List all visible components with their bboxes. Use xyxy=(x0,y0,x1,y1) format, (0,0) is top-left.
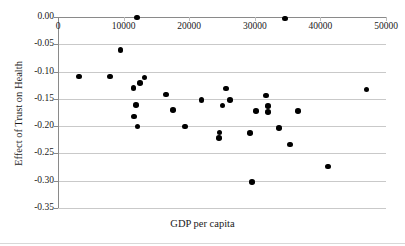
data-point xyxy=(134,15,140,21)
data-point xyxy=(170,107,176,113)
x-tick-mark xyxy=(255,17,256,21)
y-gridline xyxy=(58,44,386,45)
data-point xyxy=(295,108,301,114)
x-tick-mark xyxy=(124,17,125,21)
data-point xyxy=(364,87,370,93)
x-tick-label: 20000 xyxy=(177,22,201,32)
bottom-divider xyxy=(0,243,405,244)
data-point xyxy=(265,103,271,109)
data-point xyxy=(282,16,288,22)
data-point xyxy=(276,125,282,131)
y-tick-mark xyxy=(54,208,58,209)
x-axis-tick-labels: 01000020000300004000050000 xyxy=(58,22,386,38)
x-tick-label: 50000 xyxy=(374,22,398,32)
data-point xyxy=(131,114,137,120)
x-tick-label: 0 xyxy=(56,22,61,32)
data-point xyxy=(263,93,269,99)
y-axis-title: Effect of Trust on Health xyxy=(13,34,24,194)
y-gridline xyxy=(58,126,386,127)
y-axis-line xyxy=(58,17,59,208)
data-point xyxy=(76,74,82,80)
scatter-plot-figure: 0.00-0.05-0.10-0.15-0.20-0.25-0.30-0.35 … xyxy=(0,0,405,246)
data-point xyxy=(118,47,124,53)
data-point xyxy=(137,80,143,86)
data-point xyxy=(227,97,233,103)
x-tick-label: 40000 xyxy=(309,22,333,32)
data-point xyxy=(135,124,141,130)
data-point xyxy=(199,97,205,103)
y-tick-label: 0.00 xyxy=(10,12,54,22)
data-point xyxy=(247,130,253,136)
data-point xyxy=(265,109,271,115)
data-point xyxy=(182,124,188,130)
data-point xyxy=(249,179,255,185)
y-gridline xyxy=(58,99,386,100)
plot-area xyxy=(58,17,386,208)
x-tick-label: 10000 xyxy=(112,22,136,32)
y-gridline xyxy=(58,208,386,209)
data-point xyxy=(223,86,229,92)
x-tick-label: 30000 xyxy=(243,22,267,32)
data-point xyxy=(253,108,259,114)
data-point xyxy=(163,92,169,98)
x-axis-title: GDP per capita xyxy=(0,218,405,229)
data-point xyxy=(216,135,222,141)
data-point xyxy=(325,164,331,170)
y-gridline xyxy=(58,153,386,154)
y-tick-label: -0.35 xyxy=(10,203,54,213)
y-gridline xyxy=(58,17,386,18)
x-tick-mark xyxy=(320,17,321,21)
data-point xyxy=(107,74,113,80)
x-tick-mark xyxy=(386,17,387,21)
y-gridline xyxy=(58,72,386,73)
data-point xyxy=(131,85,137,91)
data-point xyxy=(220,103,226,109)
x-tick-mark xyxy=(189,17,190,21)
y-gridline xyxy=(58,181,386,182)
data-point xyxy=(133,102,139,108)
data-point xyxy=(287,142,293,148)
data-point xyxy=(142,75,148,81)
